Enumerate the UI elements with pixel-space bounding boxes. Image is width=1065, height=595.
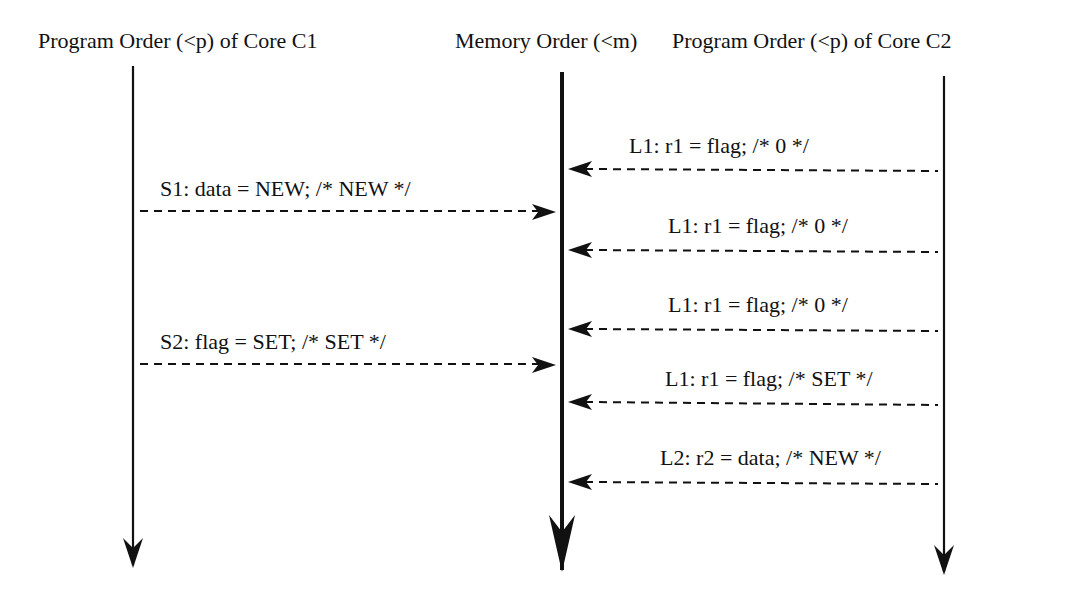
store-label-s2: S2: flag = SET; /* SET */ — [160, 331, 386, 353]
store-arrow-s1 — [140, 204, 556, 220]
core-c1-timeline — [123, 66, 143, 568]
load-arrow-1 — [568, 161, 938, 177]
load-label-1: L1: r1 = flag; /* 0 */ — [629, 135, 809, 157]
sequence-diagram — [0, 0, 1065, 595]
store-arrow-s2 — [140, 357, 556, 373]
load-label-4: L1: r1 = flag; /* SET */ — [665, 368, 873, 390]
load-label-2: L1: r1 = flag; /* 0 */ — [668, 215, 848, 237]
load-arrow-2 — [568, 242, 938, 258]
core-c2-timeline — [934, 76, 954, 575]
store-label-s1: S1: data = NEW; /* NEW */ — [160, 178, 411, 200]
load-arrow-3 — [568, 321, 938, 337]
memory-order-timeline — [549, 72, 575, 572]
load-arrow-5 — [568, 474, 938, 490]
load-label-3: L1: r1 = flag; /* 0 */ — [668, 294, 848, 316]
load-label-5: L2: r2 = data; /* NEW */ — [660, 447, 881, 469]
load-arrow-4 — [568, 394, 938, 410]
